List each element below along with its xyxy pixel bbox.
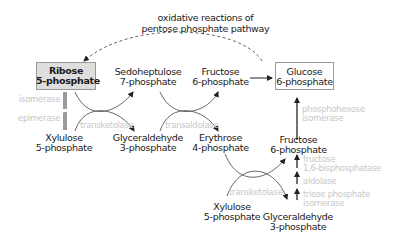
metabolite-xylulose-5-phosphate-bottom: Xylulose 5-phosphate: [198, 202, 266, 222]
metabolite-glyceraldehyde-3-phosphate-bottom: Glyceraldehyde 3-phosphate: [258, 212, 338, 232]
metabolite-sedoheptulose-7-phosphate: Sedoheptulose 7-phosphate: [108, 67, 188, 87]
enzyme-transketolase-1: transketolase: [80, 121, 134, 130]
enzyme-triose-phosphate-isomerase: triose phosphate isomerase: [303, 190, 370, 208]
enzyme-transaldolase: transaldolase: [165, 121, 218, 130]
enzyme-fructose-bisphosphatase: fructose 1,6-bisphosphatase: [303, 155, 381, 173]
oxidative-reactions-title: oxidative reactions of pentose phosphate…: [118, 12, 293, 34]
title-line-2: pentose phosphate pathway: [118, 23, 293, 34]
enzyme-transketolase-2: transketolase: [229, 188, 283, 197]
metabolite-fructose-6-phosphate-top: Fructose 6-phosphate: [188, 67, 253, 87]
metabolite-xylulose-5-phosphate-left: Xylulose 5-phosphate: [30, 133, 98, 153]
enzyme-phosphohexose-isomerase: phosphohexose isomerase: [302, 105, 365, 123]
metabolite-glucose-6-phosphate: Glucose 6-phosphate: [275, 67, 334, 87]
enzyme-isomerase: isomerase: [19, 95, 60, 104]
metabolite-glyceraldehyde-3-phosphate-mid: Glyceraldehyde 3-phosphate: [108, 133, 188, 153]
metabolite-fructose-6-phosphate-right: Fructose 6-phosphate: [266, 135, 331, 155]
metabolite-ribose-5-phosphate: Ribose 5-phosphate: [36, 66, 96, 86]
enzyme-epimerase: epimerase: [18, 114, 60, 123]
title-line-1: oxidative reactions of: [118, 12, 293, 23]
oxidative-dashed-arrow: [84, 32, 262, 61]
metabolite-erythrose-4-phosphate: Erythrose 4-phosphate: [188, 133, 253, 153]
transaldolase-curve-a: [160, 92, 218, 112]
transketolase-curve-1a: [75, 92, 133, 112]
enzyme-aldolase: aldolase: [303, 177, 336, 186]
transketolase-curve-2a: [225, 154, 285, 177]
